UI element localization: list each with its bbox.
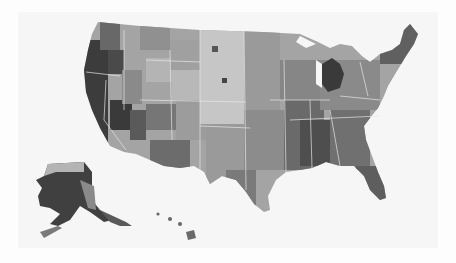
- us-county-choropleth: [0, 0, 456, 263]
- map-frame: [0, 0, 456, 263]
